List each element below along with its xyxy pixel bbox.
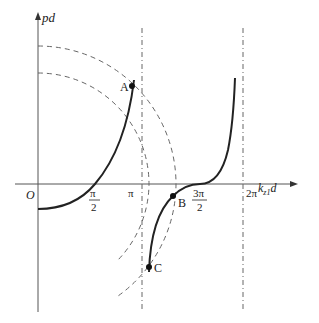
tick-half-pi-den: 2 (91, 201, 97, 213)
curve-branch-2 (149, 78, 235, 272)
dashed-circle-inner (38, 73, 149, 262)
dispersion-diagram: pd O kz1d π 2 π 3π 2 2π A B C (0, 0, 319, 323)
y-axis-label: pd (41, 10, 56, 25)
point-a-marker (129, 83, 135, 89)
y-axis-arrow-icon (35, 12, 41, 20)
tick-two-pi: 2π (246, 187, 258, 199)
x-axis-label: kz1d (258, 181, 277, 197)
dashed-circle-outer (38, 46, 176, 296)
curve-branch-1 (38, 80, 134, 209)
tick-pi: π (128, 187, 134, 199)
point-c-label: C (154, 261, 162, 275)
point-b-marker (170, 193, 176, 199)
point-b-label: B (178, 196, 186, 210)
x-axis-label-d: d (270, 181, 277, 195)
origin-label: O (26, 188, 35, 202)
x-axis-label-sub: z1 (262, 188, 270, 197)
tick-three-half-pi-num: 3π (193, 187, 205, 199)
x-axis-arrow-icon (290, 181, 298, 187)
point-c-marker (146, 264, 152, 270)
tick-three-half-pi-den: 2 (197, 201, 203, 213)
point-a-label: A (120, 80, 129, 94)
tick-half-pi-num: π (90, 187, 96, 199)
